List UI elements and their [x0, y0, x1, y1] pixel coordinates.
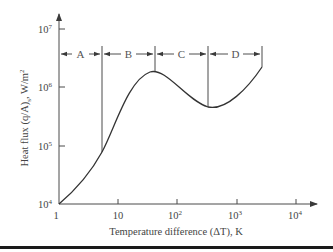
axes: [59, 14, 317, 204]
region-label-a: A: [77, 48, 85, 60]
region-label-b: B: [125, 48, 132, 60]
x-tick-label-1000: 103: [228, 209, 243, 221]
boiling-curve-chart: 1 10 102 103 104 104 105 106 107 Tempera…: [0, 0, 333, 252]
boiling-curve-line: [59, 67, 262, 204]
x-tick-labels: 1 10 102 103 104: [53, 209, 302, 221]
x-tick-label-1: 1: [53, 210, 58, 221]
y-axis-label: Heat flux (q/A)s, W/m2: [18, 69, 33, 167]
x-ticks: [118, 199, 296, 204]
x-tick-label-10: 10: [113, 210, 124, 221]
y-tick-label-1e7: 107: [38, 23, 53, 35]
y-tick-label-1e4: 104: [38, 198, 53, 210]
y-tick-label-1e5: 105: [38, 140, 53, 152]
x-tick-label-10000: 104: [288, 209, 303, 221]
y-tick-label-1e6: 106: [38, 81, 53, 93]
region-label-d: D: [232, 48, 240, 60]
x-axis-label: Temperature difference (ΔT), K: [109, 226, 243, 238]
bottom-rule: [0, 246, 333, 249]
x-tick-label-100: 102: [168, 209, 183, 221]
y-ticks: [59, 29, 65, 146]
region-label-c: C: [178, 48, 185, 60]
y-tick-labels: 104 105 106 107: [38, 23, 53, 210]
